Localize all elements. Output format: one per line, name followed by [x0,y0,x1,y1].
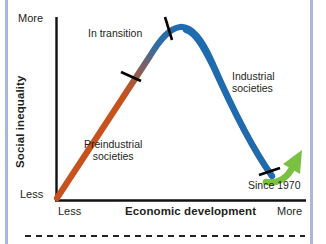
annotation-preindustrial-line-1: Preindustrial [84,138,142,150]
y-axis-tick-less: Less [20,188,43,200]
annotation-preindustrial-societies: Preindustrial societies [84,138,142,163]
annotation-preindustrial-line-2: societies [84,150,142,162]
annotation-industrial-line-2: societies [232,82,275,94]
annotation-industrial-societies: Industrial societies [232,70,275,95]
annotation-since-1970: Since 1970 [248,180,301,192]
x-axis-tick-less: Less [58,205,81,217]
y-axis-tick-more: More [18,12,43,24]
x-axis-title: Economic development [125,205,256,218]
kuznets-curve-path [57,27,272,198]
annotation-industrial-line-1: Industrial [232,70,275,82]
x-axis-tick-more: More [277,205,302,217]
y-axis-title: Social inequality [14,76,27,168]
kuznets-curve-figure: More Less Social inequality Less Economi… [0,0,326,244]
annotation-in-transition: In transition [88,28,142,40]
industrial-segment-path [186,30,272,176]
